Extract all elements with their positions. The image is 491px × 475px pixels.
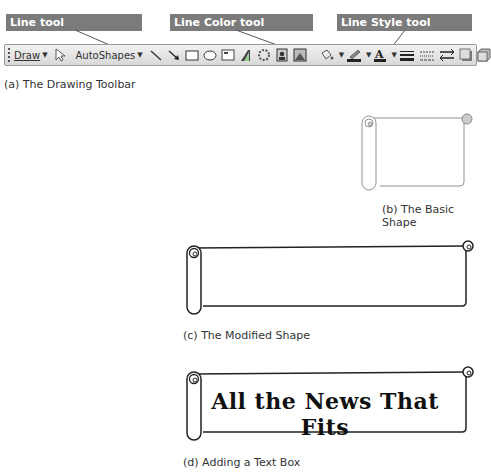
chevron-down-icon: ▼ [137,51,142,59]
callout-line-style-tool: Line Style tool [337,14,472,31]
draw-menu-button[interactable]: Draw ▼ [14,46,48,64]
caption-a: (a) The Drawing Toolbar [4,78,136,91]
chevron-down-icon: ▼ [42,51,47,59]
chevron-down-icon[interactable]: ▼ [339,51,344,59]
toolbar-grip[interactable] [8,48,10,62]
callout-line-color-tool: Line Color tool [170,14,313,31]
draw-menu-label: Draw [14,50,40,61]
fill-color-icon[interactable] [319,47,335,63]
3d-style-icon[interactable] [477,47,491,63]
autoshapes-menu-label: AutoShapes [76,50,136,61]
chevron-down-icon[interactable]: ▼ [391,51,396,59]
diagram-icon[interactable] [257,47,271,63]
modified-scroll-shape[interactable] [183,236,483,318]
dash-style-icon[interactable] [419,47,435,63]
oval-icon[interactable] [203,47,217,63]
line-color-icon[interactable] [346,47,362,63]
clip-art-icon[interactable] [275,47,289,63]
arrow-style-icon[interactable] [439,47,455,63]
callout-leader-lines [0,0,483,80]
autoshapes-menu-button[interactable]: AutoShapes ▼ [76,46,143,64]
chevron-down-icon[interactable]: ▼ [366,51,371,59]
arrow-icon[interactable] [167,47,181,63]
drawing-toolbar: Draw ▼ AutoShapes ▼ ▼ ▼ A [4,44,477,66]
picture-icon[interactable] [293,47,307,63]
font-color-icon[interactable]: A [373,47,387,63]
caption-b: (b) The Basic Shape [382,203,483,229]
text-box-icon[interactable] [221,47,235,63]
select-pointer-icon[interactable] [54,47,66,63]
line-icon[interactable] [149,47,163,63]
basic-scroll-shape[interactable] [358,110,478,194]
wordart-icon[interactable] [239,47,253,63]
callout-line-tool: Line tool [6,14,142,31]
line-style-icon[interactable] [399,47,415,63]
banner-text-box[interactable]: All the News That Fits [185,388,465,440]
caption-d: (d) Adding a Text Box [183,456,300,469]
shadow-style-icon[interactable] [459,47,473,63]
rectangle-icon[interactable] [185,47,199,63]
caption-c: (c) The Modified Shape [183,329,310,342]
